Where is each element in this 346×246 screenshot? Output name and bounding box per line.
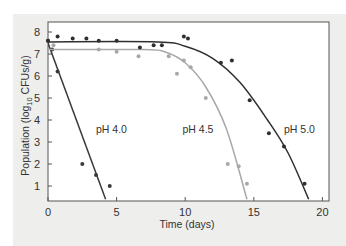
data-point-ph-50 xyxy=(303,182,307,186)
data-point-ph-45 xyxy=(175,72,179,76)
data-point-ph-40 xyxy=(56,70,60,74)
data-point-ph-50 xyxy=(71,37,75,41)
y-tick-label: 2 xyxy=(34,158,40,170)
x-tick-label: 20 xyxy=(316,206,328,218)
y-tick-label: 1 xyxy=(34,180,40,192)
x-tick-label: 5 xyxy=(114,206,120,218)
x-tick-label: 10 xyxy=(179,206,191,218)
data-point-ph-40 xyxy=(108,184,112,188)
series-label-ph-40: pH 4.0 xyxy=(96,123,127,135)
data-point-ph-50 xyxy=(248,98,252,102)
data-point-ph-50 xyxy=(186,37,190,41)
data-point-ph-45 xyxy=(97,48,101,52)
y-tick-label: 3 xyxy=(34,136,40,148)
data-point-ph-45 xyxy=(237,164,241,168)
data-point-ph-45 xyxy=(189,65,193,69)
population-chart: 1234567805101520Time (days)Population (l… xyxy=(0,0,346,246)
y-axis-title: Population (log10 CFUs/g) xyxy=(19,55,34,175)
y-tick-label: 8 xyxy=(34,26,40,38)
series-label-ph-45: pH 4.5 xyxy=(182,123,213,135)
data-point-ph-45 xyxy=(167,54,171,58)
data-point-ph-45 xyxy=(137,54,141,58)
data-point-ph-50 xyxy=(182,34,186,38)
data-point-ph-50 xyxy=(160,43,164,47)
data-point-ph-50 xyxy=(219,61,223,65)
data-point-ph-50 xyxy=(282,144,286,148)
data-point-ph-45 xyxy=(182,59,186,63)
data-point-ph-50 xyxy=(230,59,234,63)
data-point-ph-50 xyxy=(56,34,60,38)
y-tick-label: 7 xyxy=(34,48,40,60)
x-tick-label: 0 xyxy=(45,206,51,218)
x-tick-label: 15 xyxy=(248,206,260,218)
data-point-ph-50 xyxy=(152,43,156,47)
x-axis-title: Time (days) xyxy=(159,218,214,230)
data-point-ph-40 xyxy=(80,162,84,166)
y-tick-label: 4 xyxy=(34,114,40,126)
data-point-ph-45 xyxy=(115,50,119,54)
data-point-ph-50 xyxy=(138,45,142,49)
data-point-ph-50 xyxy=(115,39,119,43)
data-point-ph-45 xyxy=(51,43,55,47)
y-tick-label: 6 xyxy=(34,70,40,82)
data-point-ph-45 xyxy=(204,96,208,100)
data-point-ph-50 xyxy=(97,39,101,43)
data-point-ph-50 xyxy=(267,131,271,135)
data-point-ph-40 xyxy=(94,173,98,177)
data-point-ph-50 xyxy=(46,39,50,43)
data-point-ph-45 xyxy=(226,162,230,166)
y-tick-label: 5 xyxy=(34,92,40,104)
data-point-ph-50 xyxy=(84,37,88,41)
data-point-ph-45 xyxy=(245,182,249,186)
series-label-ph-50: pH 5.0 xyxy=(284,123,315,135)
